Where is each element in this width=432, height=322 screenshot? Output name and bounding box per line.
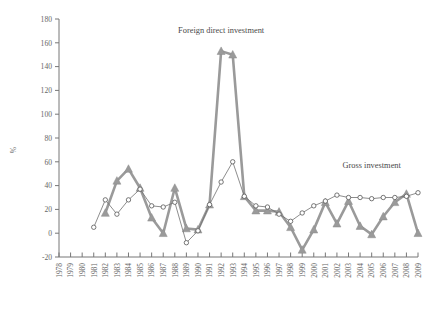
annotation-fdi: Foreign direct investment (178, 26, 265, 35)
y-tick-label: 160 (41, 39, 53, 48)
data-point-gross (103, 198, 107, 202)
y-tick-label: 140 (41, 62, 53, 71)
series-line-gross (94, 162, 418, 243)
x-tick-label: 1994 (240, 263, 249, 278)
data-point-gross (242, 194, 246, 198)
x-tick-label: 1980 (78, 263, 87, 278)
data-point-gross (161, 205, 165, 209)
y-axis-title: % (9, 146, 18, 153)
x-tick-label: 1986 (147, 263, 156, 278)
data-point-gross (323, 199, 327, 203)
data-point-gross (207, 202, 211, 206)
y-axis: -20020406080100120140160180 (41, 15, 59, 262)
data-point-fdi (101, 209, 109, 217)
investment-line-chart: -20020406080100120140160180 197819791980… (0, 0, 432, 322)
x-tick-label: 1985 (136, 263, 145, 278)
x-tick-label: 1993 (229, 263, 238, 278)
x-tick-label: 2008 (402, 263, 411, 278)
x-tick-label: 1999 (298, 263, 307, 278)
x-tick-label: 2009 (414, 263, 423, 278)
x-tick-label: 1983 (113, 263, 122, 278)
data-point-gross (416, 191, 420, 195)
x-tick-label: 1981 (90, 263, 99, 278)
x-tick-label: 2007 (391, 263, 400, 278)
x-tick-label: 1990 (194, 263, 203, 278)
x-tick-label: 1995 (252, 263, 261, 278)
data-point-gross (219, 180, 223, 184)
y-tick-label: 20 (44, 205, 52, 214)
data-point-fdi (414, 229, 422, 237)
data-series-group (92, 47, 422, 253)
x-tick-label: 2002 (333, 263, 342, 278)
chart-container: -20020406080100120140160180 197819791980… (0, 0, 432, 322)
data-point-gross (312, 204, 316, 208)
data-point-gross (369, 196, 373, 200)
y-tick-label: 80 (44, 134, 52, 143)
data-point-gross (92, 225, 96, 229)
x-tick-label: 2003 (344, 263, 353, 278)
data-point-fdi (171, 184, 179, 192)
x-tick-label: 1979 (66, 263, 75, 278)
data-point-gross (173, 200, 177, 204)
data-point-gross (231, 160, 235, 164)
x-tick-label: 1996 (263, 263, 272, 278)
data-point-fdi (124, 165, 132, 173)
y-tick-label: 180 (41, 15, 53, 24)
data-point-gross (393, 195, 397, 199)
data-point-gross (346, 195, 350, 199)
y-tick-label: 100 (41, 110, 53, 119)
annotation-gross: Gross investment (342, 161, 401, 170)
data-point-gross (300, 211, 304, 215)
x-axis: 1978197919801981198219831984198519861987… (55, 253, 423, 278)
data-point-gross (265, 205, 269, 209)
x-tick-label: 1997 (275, 263, 284, 278)
x-tick-label: 1984 (124, 263, 133, 278)
data-point-gross (335, 193, 339, 197)
y-tick-label: 40 (44, 181, 52, 190)
x-tick-label: 2006 (379, 263, 388, 278)
y-tick-label: 60 (44, 158, 52, 167)
data-point-gross (381, 195, 385, 199)
x-tick-label: 1987 (159, 263, 168, 278)
x-tick-label: 2000 (310, 263, 319, 278)
data-point-gross (149, 204, 153, 208)
data-point-gross (277, 212, 281, 216)
data-point-gross (404, 194, 408, 198)
annotations-group: Foreign direct investmentGross investmen… (178, 26, 401, 169)
x-tick-label: 1991 (205, 263, 214, 278)
data-point-gross (288, 219, 292, 223)
x-tick-label: 2004 (356, 263, 365, 278)
x-tick-label: 1978 (55, 263, 64, 278)
data-point-gross (254, 204, 258, 208)
data-point-gross (196, 229, 200, 233)
data-point-gross (126, 198, 130, 202)
y-tick-label: 0 (48, 229, 52, 238)
x-tick-label: 2001 (321, 263, 330, 278)
x-tick-label: 1989 (182, 263, 191, 278)
x-tick-label: 2005 (367, 263, 376, 278)
x-tick-label: 1982 (101, 263, 110, 278)
x-tick-label: 1988 (171, 263, 180, 278)
data-point-gross (358, 195, 362, 199)
data-point-gross (138, 187, 142, 191)
y-tick-label: 120 (41, 86, 53, 95)
data-point-gross (115, 212, 119, 216)
data-point-fdi (310, 225, 318, 233)
y-tick-label: -20 (42, 253, 52, 262)
data-point-gross (184, 241, 188, 245)
x-tick-label: 1992 (217, 263, 226, 278)
x-tick-label: 1998 (286, 263, 295, 278)
data-point-fdi (148, 214, 156, 222)
